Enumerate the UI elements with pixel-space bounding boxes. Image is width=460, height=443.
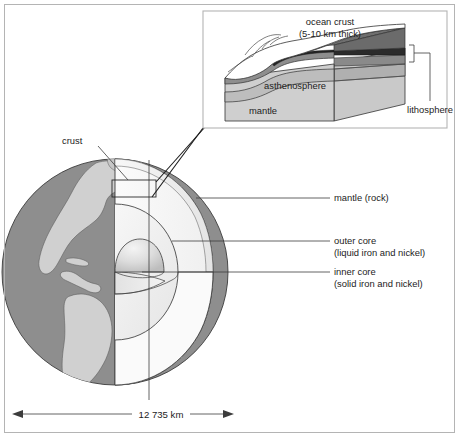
inner-core-label-line1: inner core (334, 266, 376, 277)
outer-core-label-line1: outer core (334, 235, 376, 246)
scale-arrow-right (223, 410, 234, 418)
globe-group (2, 151, 228, 400)
inset-mantle-label: mantle (249, 105, 277, 116)
scale-bar: 12 735 km (12, 409, 234, 420)
scale-value: 12 735 km (139, 409, 184, 420)
earth-structure-figure: ocean crust (5-10 km thick) asthenospher… (0, 0, 460, 443)
earth-diagram-canvas: ocean crust (5-10 km thick) asthenospher… (0, 0, 460, 443)
inner-core-label-line2: (solid iron and nickel) (334, 278, 423, 289)
ocean-crust-label-line1: ocean crust (306, 16, 355, 27)
outer-core-label-line2: (liquid iron and nickel) (334, 247, 425, 258)
ocean-crust-label-line2: (5-10 km thick) (299, 28, 361, 39)
asthenosphere-label: asthenosphere (264, 80, 326, 91)
lithosphere-label: lithosphere (407, 104, 453, 115)
crust-label: crust (62, 135, 83, 146)
inset-panel: ocean crust (5-10 km thick) asthenospher… (203, 11, 453, 128)
scale-arrow-left (12, 410, 23, 418)
mantle-label: mantle (rock) (334, 192, 389, 203)
